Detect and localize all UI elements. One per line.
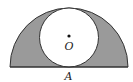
label-point-a: A bbox=[64, 70, 73, 82]
center-point bbox=[67, 34, 70, 37]
geometry-figure: O A bbox=[0, 0, 133, 82]
label-center-o: O bbox=[65, 40, 74, 53]
